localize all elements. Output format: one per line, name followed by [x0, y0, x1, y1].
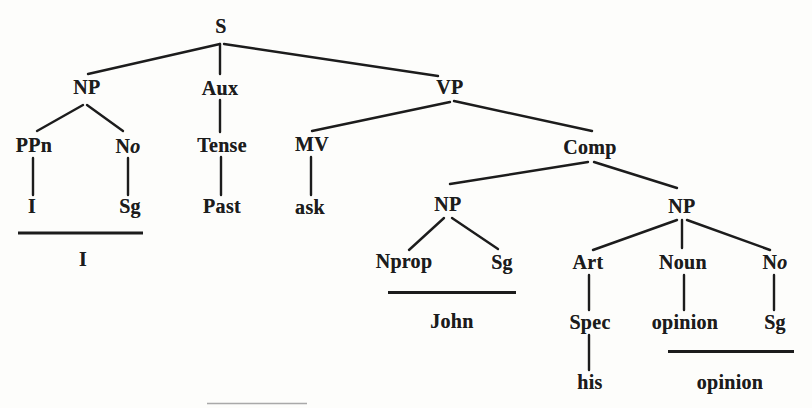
edge-np1-nprop: [409, 218, 444, 250]
terminal-sg-1: Sg: [119, 196, 141, 216]
edge-vp-mv: [312, 102, 450, 131]
word-i: I: [79, 249, 87, 269]
word-opinion: opinion: [697, 372, 764, 392]
node-no-2: No: [762, 252, 787, 272]
node-noun: Noun: [659, 252, 707, 272]
word-john: John: [430, 311, 473, 331]
node-art: Art: [573, 252, 604, 272]
edge-comp-np2: [594, 162, 677, 188]
edge-s-vp: [224, 44, 438, 76]
node-no-1: No: [115, 136, 140, 156]
edge-np-ppn: [37, 105, 83, 131]
node-np-object-1: NP: [434, 194, 461, 214]
edge-vp-comp: [454, 101, 592, 131]
scanned-syntax-tree-page: SNPAuxVPPPnNoTenseMVCompISgPastaskNPNPNp…: [0, 0, 812, 408]
node-no-1-italic-suffix: o: [130, 135, 140, 157]
node-nprop: Nprop: [376, 251, 433, 271]
node-vp: VP: [436, 77, 463, 97]
edge-comp-np1: [450, 162, 588, 184]
terminal-sg-3: Sg: [764, 312, 786, 332]
node-comp: Comp: [563, 137, 616, 157]
node-s: S: [215, 16, 226, 36]
node-np-subject: NP: [73, 77, 100, 97]
edge-np-no: [87, 105, 123, 131]
node-no-2-italic-suffix: o: [777, 251, 787, 273]
terminal-past: Past: [203, 196, 241, 216]
node-tense: Tense: [197, 135, 247, 155]
edge-np1-sg: [452, 218, 498, 249]
node-ppn: PPn: [16, 135, 52, 155]
node-np-object-2: NP: [668, 196, 695, 216]
terminal-i: I: [28, 196, 36, 216]
terminal-opinion: opinion: [652, 312, 719, 332]
edge-np2-art: [593, 220, 677, 250]
node-aux: Aux: [202, 78, 238, 98]
edge-np2-no: [687, 220, 770, 250]
word-his: his: [577, 372, 602, 392]
node-spec: Spec: [569, 312, 610, 332]
terminal-sg-2: Sg: [491, 252, 513, 272]
node-mv: MV: [295, 134, 329, 154]
edge-s-np: [88, 44, 220, 74]
terminal-ask: ask: [295, 197, 325, 217]
